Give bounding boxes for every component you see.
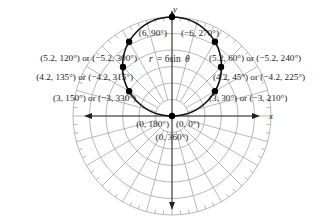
grid-degree-tick bbox=[138, 23, 139, 27]
grid-degree-tick bbox=[245, 177, 248, 180]
plotted-point bbox=[212, 39, 218, 45]
grid-degree-tick bbox=[258, 156, 262, 158]
grid-degree-tick bbox=[266, 133, 270, 134]
equation-label: r = 6sin θ bbox=[149, 54, 190, 64]
grid-degree-tick bbox=[82, 156, 86, 158]
plotted-point bbox=[218, 64, 224, 70]
grid-degree-tick bbox=[130, 26, 132, 30]
point-label-4-2-45: (4.2, 45°) or (−4.2, 225°) bbox=[213, 72, 305, 82]
point-label-6-90: (6, 90°) bbox=[139, 28, 167, 38]
grid-degree-tick bbox=[115, 194, 117, 197]
grid-degree-tick bbox=[261, 82, 265, 83]
grid-spoke bbox=[146, 132, 167, 212]
y-axis-down-arrow-icon bbox=[169, 202, 175, 210]
point-label-0-360: (0, 360°) bbox=[156, 132, 189, 142]
equation-rhs: = 6sin bbox=[157, 54, 181, 64]
grid-degree-tick bbox=[212, 202, 214, 206]
grid-degree-tick bbox=[155, 210, 156, 214]
grid-degree-tick bbox=[205, 205, 206, 209]
point-label-neg6-270: (−6, 270°) bbox=[181, 28, 219, 38]
polar-graph-figure: x y r = 6sin θ (6, 90°) (−6, 270°) (5.2,… bbox=[0, 0, 335, 216]
plotted-point bbox=[169, 14, 175, 20]
point-label-4-2-135: (4.2, 135°) or (−4.2, 315°) bbox=[36, 72, 133, 82]
point-label-5-2-120: (5.2, 120°) or (−5.2, 300°) bbox=[40, 53, 137, 63]
grid-degree-tick bbox=[227, 35, 229, 38]
grid-degree-tick bbox=[130, 202, 132, 206]
grid-degree-tick bbox=[91, 171, 94, 173]
grid-degree-tick bbox=[115, 35, 117, 38]
grid-degree-tick bbox=[189, 210, 190, 214]
grid-degree-tick bbox=[108, 189, 111, 192]
grid-degree-tick bbox=[79, 82, 83, 83]
grid-degree-tick bbox=[96, 177, 99, 180]
equation-lhs: r bbox=[149, 54, 153, 64]
grid-spoke bbox=[102, 128, 160, 186]
point-label-3-30: (3, 30°) or (−3, 210°) bbox=[209, 93, 287, 103]
grid-degree-tick bbox=[227, 194, 229, 197]
plotted-point bbox=[169, 113, 175, 119]
plotted-point bbox=[126, 39, 132, 45]
grid-degree-tick bbox=[250, 171, 253, 173]
grid-degree-tick bbox=[75, 133, 79, 134]
point-label-0-180: (0, 180°) bbox=[136, 119, 169, 129]
point-label-3-150: (3, 150°) or (−3, 330°) bbox=[53, 93, 136, 103]
y-axis-label: y bbox=[172, 4, 177, 14]
plotted-point bbox=[120, 64, 126, 70]
y-axis bbox=[169, 10, 175, 210]
point-label-0-0: (0, 0°) bbox=[176, 119, 200, 129]
grid-spoke bbox=[176, 132, 197, 212]
grid-degree-tick bbox=[205, 23, 206, 27]
grid-degree-tick bbox=[79, 149, 83, 150]
grid-degree-tick bbox=[233, 189, 236, 192]
equation-theta: θ bbox=[185, 54, 190, 64]
grid-spoke bbox=[188, 120, 268, 141]
x-axis-label: x bbox=[268, 111, 273, 121]
grid-spoke bbox=[184, 128, 242, 186]
x-axis-left-arrow-icon bbox=[84, 113, 92, 119]
grid-degree-tick bbox=[261, 149, 265, 150]
grid-degree-tick bbox=[233, 40, 236, 43]
x-axis-right-arrow-icon bbox=[252, 113, 260, 119]
grid-degree-tick bbox=[138, 205, 139, 209]
point-label-5-2-60: (5.2, 60°) or (−5.2, 240°) bbox=[209, 53, 301, 63]
grid-degree-tick bbox=[108, 40, 111, 43]
